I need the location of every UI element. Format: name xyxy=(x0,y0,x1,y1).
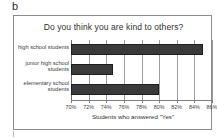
bar-high-school xyxy=(71,44,203,55)
bar-junior-high-school xyxy=(71,64,113,75)
bar-row-high-school xyxy=(71,40,212,60)
x-tick-mark xyxy=(71,100,72,103)
x-tick-mark xyxy=(89,100,90,103)
x-tick-mark xyxy=(159,100,160,103)
gridline-86pct xyxy=(212,40,213,100)
x-tick-mark xyxy=(124,100,125,103)
x-tick-mark xyxy=(106,100,107,103)
plot-area xyxy=(71,40,212,100)
x-tick-mark xyxy=(177,100,178,103)
x-tick-mark xyxy=(194,100,195,103)
x-tick-mark xyxy=(212,100,213,103)
x-tick-label: 86% xyxy=(201,104,217,110)
category-axis-labels: high school students junior high school … xyxy=(14,40,69,100)
category-label-junior-high-school: junior high school students xyxy=(13,60,69,73)
category-label-elementary-school: elementary school students xyxy=(13,80,69,93)
adjacent-panel-edge xyxy=(13,131,14,137)
category-label-line: students xyxy=(48,66,69,72)
category-label-high-school: high school students xyxy=(13,44,69,50)
panel-label: b xyxy=(12,1,18,12)
bar-row-elementary-school xyxy=(71,80,212,100)
category-label-line: students xyxy=(48,86,69,92)
bar-row-junior-high-school xyxy=(71,60,212,80)
bar-elementary-school xyxy=(71,84,159,95)
chart-frame: Do you think you are kind to others? hig… xyxy=(13,15,212,130)
x-axis-title: Students who answered "Yes" xyxy=(54,113,212,120)
chart-title: Do you think you are kind to others? xyxy=(14,22,213,32)
x-tick-mark xyxy=(142,100,143,103)
category-label-line: elementary school xyxy=(24,80,69,86)
category-label-line: high school students xyxy=(18,44,69,50)
figure-panel-b: b Do you think you are kind to others? h… xyxy=(0,0,217,138)
category-label-line: junior high school xyxy=(25,60,69,66)
